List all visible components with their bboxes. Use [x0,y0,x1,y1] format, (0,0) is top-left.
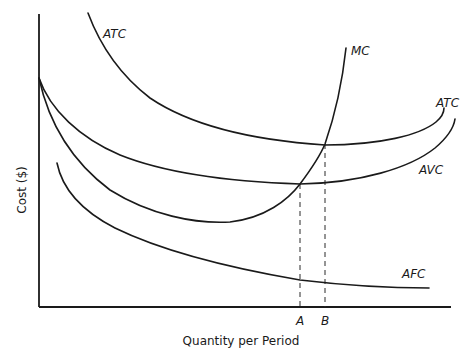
chart-svg: ATC MC ATC AVC AFC A B Quantity per Peri… [0,0,470,355]
atc-label-top: ATC [102,27,127,41]
tick-label-a: A [295,314,304,328]
afc-label: AFC [401,267,426,281]
y-axis-title: Cost ($) [15,166,29,214]
atc-curve [88,13,444,145]
avc-curve [39,78,455,184]
cost-curves-chart: ATC MC ATC AVC AFC A B Quantity per Peri… [0,0,470,355]
afc-curve [57,163,429,288]
x-axis-title: Quantity per Period [183,334,300,348]
atc-label-right: ATC [435,96,460,110]
tick-label-b: B [321,314,329,328]
mc-label: MC [351,44,370,58]
avc-label: AVC [418,163,444,177]
